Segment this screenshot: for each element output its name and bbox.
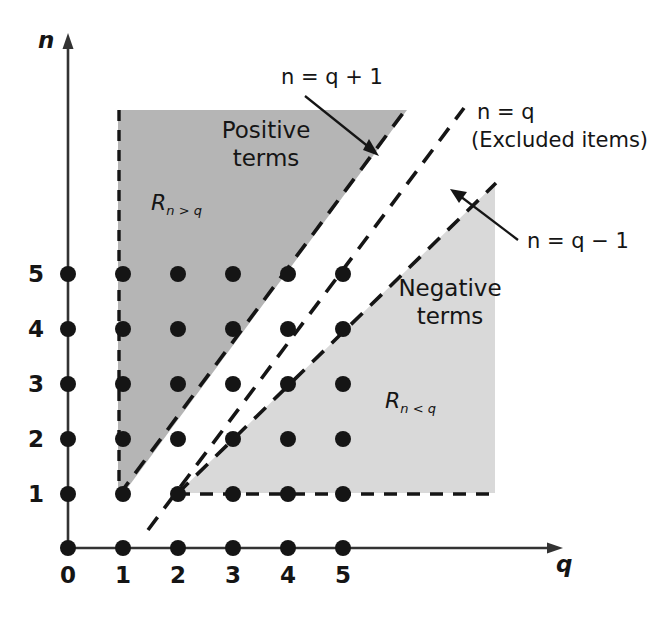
lattice-dot: [225, 431, 241, 447]
lattice-dot: [335, 486, 351, 502]
lattice-dot: [225, 266, 241, 282]
y-tick-label-2: 2: [22, 426, 50, 452]
line-label-n-eq-q-plus-1: n = q + 1: [281, 65, 383, 89]
lattice-dot: [60, 266, 76, 282]
lattice-dot: [280, 486, 296, 502]
lattice-dot: [115, 376, 131, 392]
y-axis-name: n: [38, 27, 54, 53]
lattice-dot: [225, 540, 241, 556]
lattice-dot: [60, 486, 76, 502]
y-tick-label-4: 4: [22, 316, 50, 342]
lattice-region-figure: n q 0 1 2 3 4 5 1 2 3 4 5 Positive terms…: [0, 0, 670, 621]
lattice-dot: [225, 376, 241, 392]
x-tick-label-5: 5: [329, 562, 357, 588]
lattice-dot: [280, 540, 296, 556]
positive-region-label-line2: terms: [196, 145, 336, 171]
lattice-dot: [60, 431, 76, 447]
lattice-dot: [170, 321, 186, 337]
lattice-dot: [115, 486, 131, 502]
negative-region-symbol-base: R: [385, 388, 400, 413]
lattice-dot: [225, 321, 241, 337]
y-tick-label-5: 5: [22, 261, 50, 287]
x-tick-label-1: 1: [109, 562, 137, 588]
lattice-dot: [170, 486, 186, 502]
positive-region-symbol: Rn > q: [151, 190, 202, 219]
y-tick-label-3: 3: [22, 371, 50, 397]
lattice-dot: [335, 376, 351, 392]
lattice-dot: [280, 321, 296, 337]
x-axis-name: q: [556, 551, 572, 577]
lattice-dot: [225, 486, 241, 502]
lattice-dot: [335, 321, 351, 337]
lattice-dot: [280, 431, 296, 447]
line-label-n-eq-q: n = q: [477, 100, 535, 124]
negative-region-label-line2: terms: [375, 303, 525, 329]
plot-canvas: [0, 0, 670, 621]
lattice-dot: [60, 540, 76, 556]
x-tick-label-0: 0: [54, 562, 82, 588]
x-tick-label-2: 2: [164, 562, 192, 588]
lattice-dot: [115, 321, 131, 337]
lattice-dot: [115, 540, 131, 556]
positive-region-symbol-base: R: [151, 190, 166, 215]
positive-region-symbol-subscript: n > q: [166, 203, 202, 218]
lattice-dot: [335, 431, 351, 447]
lattice-dot: [60, 376, 76, 392]
lattice-dot: [60, 321, 76, 337]
x-tick-label-4: 4: [274, 562, 302, 588]
negative-region-symbol-subscript: n < q: [400, 401, 436, 416]
lattice-dot: [170, 431, 186, 447]
lattice-dot: [335, 540, 351, 556]
line-label-n-eq-q-minus-1: n = q − 1: [527, 229, 629, 253]
lattice-dot: [170, 266, 186, 282]
lattice-dot: [170, 540, 186, 556]
x-tick-label-3: 3: [219, 562, 247, 588]
y-tick-label-1: 1: [22, 481, 50, 507]
lattice-dot: [280, 376, 296, 392]
lattice-dot: [335, 266, 351, 282]
negative-region-symbol: Rn < q: [385, 388, 436, 417]
lattice-dot: [170, 376, 186, 392]
lattice-dot: [280, 266, 296, 282]
positive-region-label-line1: Positive: [196, 117, 336, 143]
lattice-dot: [115, 266, 131, 282]
line-label-excluded-items: (Excluded items): [471, 128, 648, 152]
y-axis-arrowhead: [63, 33, 74, 49]
negative-region-label-line1: Negative: [375, 275, 525, 301]
lattice-dot: [115, 431, 131, 447]
callout-arrowhead-lower: [450, 189, 467, 203]
